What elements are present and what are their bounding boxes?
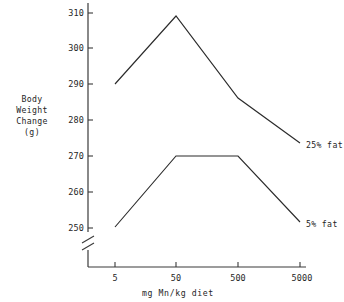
x-tick-label-5000: 5000	[292, 273, 313, 283]
y-tick-label-300: 300	[68, 43, 84, 53]
y-tick-label-250: 250	[68, 223, 84, 233]
line-chart: 310 300 290 280 270 260 250 5 50 500 500…	[0, 0, 344, 302]
y-tick-label-260: 260	[68, 187, 84, 197]
y-axis-title-line-4: (g)	[24, 127, 40, 137]
y-tick-label-270: 270	[68, 151, 84, 161]
series-label-5-percent-fat: 5% fat	[306, 219, 338, 229]
y-axis-break-mark-upper	[82, 236, 94, 243]
y-axis-title-line-1: Body	[21, 94, 42, 104]
x-tick-label-50: 50	[171, 273, 181, 283]
y-tick-label-290: 290	[68, 79, 84, 89]
y-axis-title-line-2: Weight	[16, 105, 48, 115]
y-tick-label-280: 280	[68, 115, 84, 125]
series-line-5-percent-fat	[115, 156, 300, 227]
series-line-25-percent-fat	[115, 16, 300, 143]
y-axis-break-mark-lower	[82, 243, 94, 250]
chart-page: 310 300 290 280 270 260 250 5 50 500 500…	[0, 0, 344, 302]
x-tick-label-500: 500	[230, 273, 246, 283]
x-axis-title: mg Mn/kg diet	[142, 288, 214, 298]
x-tick-label-5: 5	[112, 273, 117, 283]
series-label-25-percent-fat: 25% fat	[306, 140, 343, 150]
y-tick-label-310: 310	[68, 8, 84, 18]
y-axis-title-line-3: Change	[16, 116, 48, 126]
